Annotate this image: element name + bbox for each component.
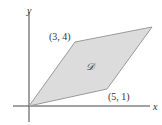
parallelogram-diagram: y x (3, 4) (5, 1) 𝒟 [0, 0, 162, 125]
vertex-label-5-1: (5, 1) [108, 91, 130, 103]
vertex-label-3-4: (3, 4) [49, 31, 71, 43]
y-axis-label: y [26, 5, 32, 16]
x-axis-label: x [152, 101, 158, 112]
